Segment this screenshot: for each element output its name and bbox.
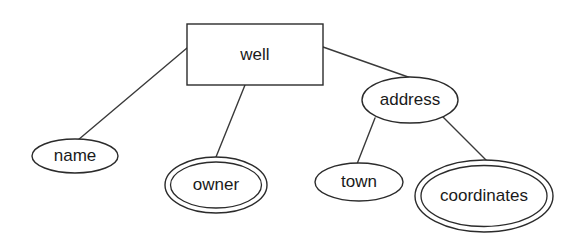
attribute-coordinates-label: coordinates: [440, 186, 528, 205]
er-diagram-svg: well name owner address town coordinates: [0, 0, 574, 242]
attribute-name[interactable]: name: [32, 139, 118, 173]
attribute-town[interactable]: town: [315, 163, 403, 201]
edge-address-coordinates: [443, 117, 487, 161]
attribute-owner-label: owner: [193, 175, 240, 194]
edge-address-town: [357, 118, 375, 164]
entity-well[interactable]: well: [187, 24, 323, 85]
edge-well-name: [78, 48, 187, 140]
attribute-name-label: name: [54, 146, 97, 165]
attribute-town-label: town: [341, 172, 377, 191]
edge-well-address: [323, 47, 411, 78]
attribute-address[interactable]: address: [362, 77, 458, 123]
er-diagram-canvas: well name owner address town coordinates: [0, 0, 574, 242]
attribute-address-label: address: [380, 90, 440, 109]
attribute-owner[interactable]: owner: [165, 157, 267, 213]
attribute-coordinates[interactable]: coordinates: [415, 160, 553, 232]
entity-well-label: well: [239, 45, 269, 64]
edge-well-owner: [216, 85, 245, 157]
